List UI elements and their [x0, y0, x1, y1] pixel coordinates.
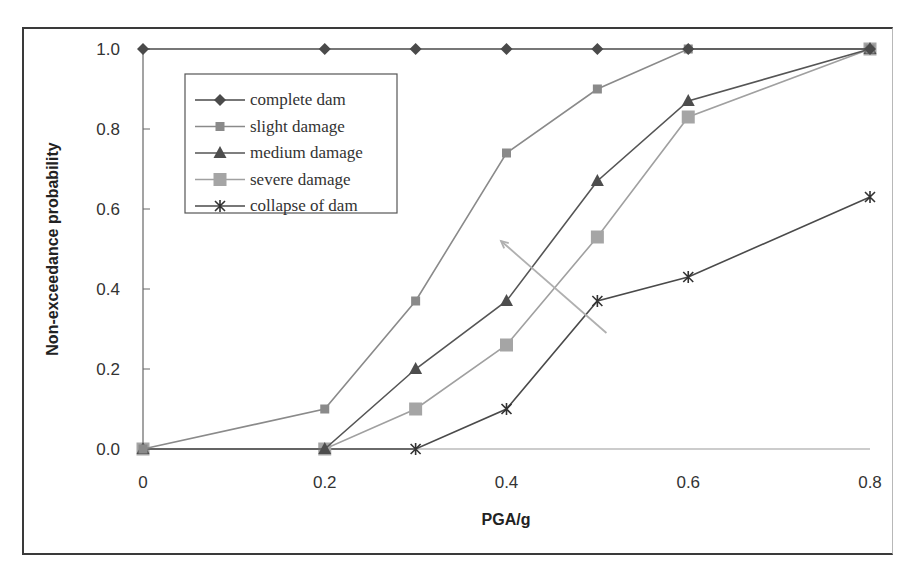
y-tick-label: 0.2: [96, 360, 120, 379]
square-marker: [682, 111, 695, 124]
x-axis-title: PGA/g: [482, 511, 531, 528]
diamond-marker: [501, 43, 513, 55]
square-marker: [591, 231, 604, 244]
triangle-marker: [409, 362, 422, 374]
x-tick-label: 0.2: [313, 473, 337, 492]
asterisk-marker: [683, 271, 693, 283]
square-marker: [409, 403, 422, 416]
legend-label: slight damage: [250, 117, 345, 136]
asterisk-marker: [865, 191, 875, 203]
diamond-marker: [137, 43, 149, 55]
square-marker: [139, 445, 148, 454]
legend-label: complete dam: [250, 90, 346, 109]
square-marker: [320, 405, 329, 414]
legend: complete damslight damagemedium damagese…: [185, 74, 397, 215]
chart-plot: 0.00.20.40.60.81.000.20.40.60.8 complete…: [0, 0, 909, 579]
diamond-marker: [591, 43, 603, 55]
square-marker: [411, 297, 420, 306]
y-tick-label: 0.4: [96, 280, 120, 299]
square-marker: [502, 149, 511, 158]
x-tick-label: 0: [138, 473, 147, 492]
asterisk-marker: [502, 403, 512, 415]
x-tick-label: 0.4: [495, 473, 519, 492]
series-collapse-of-dam: [138, 191, 875, 455]
y-tick-label: 0.8: [96, 120, 120, 139]
x-tick-label: 0.8: [858, 473, 882, 492]
legend-label: severe damage: [250, 170, 351, 189]
square-marker: [593, 85, 602, 94]
diamond-marker: [319, 43, 331, 55]
y-tick-label: 0.0: [96, 440, 120, 459]
y-tick-label: 0.6: [96, 200, 120, 219]
diamond-marker: [410, 43, 422, 55]
asterisk-marker: [592, 295, 602, 307]
square-marker: [214, 173, 227, 186]
triangle-marker: [591, 174, 604, 186]
square-marker: [216, 122, 225, 131]
y-axis-title: Non-exceedance probability: [44, 142, 61, 355]
square-marker: [500, 339, 513, 352]
y-tick-label: 1.0: [96, 40, 120, 59]
legend-label: collapse of dam: [250, 196, 358, 215]
legend-label: medium damage: [250, 143, 363, 162]
x-tick-label: 0.6: [676, 473, 700, 492]
series-complete-dam: [137, 43, 876, 55]
